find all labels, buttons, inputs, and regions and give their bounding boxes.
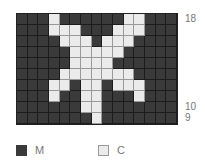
chart-cell xyxy=(102,69,113,80)
colorwork-chart-grid xyxy=(16,13,178,125)
chart-cell xyxy=(49,113,60,124)
chart-cell xyxy=(134,47,145,58)
chart-cell xyxy=(92,80,103,91)
chart-cell xyxy=(49,91,60,102)
chart-cell xyxy=(156,36,167,47)
chart-cell xyxy=(134,25,145,36)
chart-cell xyxy=(70,102,81,113)
row-label-9: 9 xyxy=(185,113,191,123)
chart-cell xyxy=(102,14,113,25)
chart-cell xyxy=(102,47,113,58)
contrast-color-label: C xyxy=(117,144,125,156)
chart-cell xyxy=(166,102,177,113)
chart-cell xyxy=(60,113,71,124)
chart-cell xyxy=(124,102,135,113)
chart-cell xyxy=(113,113,124,124)
chart-cell xyxy=(70,36,81,47)
chart-cell xyxy=(166,47,177,58)
chart-cell xyxy=(81,113,92,124)
chart-cell xyxy=(92,36,103,47)
row-label-10: 10 xyxy=(185,102,196,112)
chart-cell xyxy=(28,80,39,91)
chart-cell xyxy=(49,25,60,36)
chart-cell xyxy=(17,36,28,47)
chart-cell xyxy=(113,69,124,80)
chart-cell xyxy=(70,14,81,25)
chart-cell xyxy=(113,102,124,113)
chart-cell xyxy=(134,102,145,113)
chart-cell xyxy=(70,25,81,36)
chart-cell xyxy=(134,14,145,25)
chart-cell xyxy=(28,36,39,47)
chart-cell xyxy=(134,80,145,91)
chart-cell xyxy=(81,69,92,80)
chart-cell xyxy=(38,91,49,102)
chart-cell xyxy=(17,113,28,124)
chart-cell xyxy=(113,91,124,102)
chart-cell xyxy=(156,58,167,69)
chart-cell xyxy=(81,102,92,113)
chart-cell xyxy=(17,14,28,25)
chart-cell xyxy=(17,80,28,91)
chart-cell xyxy=(81,91,92,102)
chart-cell xyxy=(49,102,60,113)
chart-cell xyxy=(60,58,71,69)
chart-cell xyxy=(70,113,81,124)
chart-cell xyxy=(28,58,39,69)
chart-cell xyxy=(38,36,49,47)
chart-cell xyxy=(145,91,156,102)
chart-cell xyxy=(92,47,103,58)
chart-cell xyxy=(17,91,28,102)
chart-cell xyxy=(113,47,124,58)
chart-cell xyxy=(113,14,124,25)
chart-cell xyxy=(124,80,135,91)
legend-item-contrast-color: C xyxy=(98,144,125,156)
chart-cell xyxy=(145,25,156,36)
chart-cell xyxy=(145,58,156,69)
chart-cell xyxy=(49,80,60,91)
chart-cell xyxy=(166,36,177,47)
chart-cell xyxy=(134,113,145,124)
chart-cell xyxy=(28,25,39,36)
chart-cell xyxy=(17,102,28,113)
chart-cell xyxy=(28,102,39,113)
legend-item-main-color: M xyxy=(16,144,44,156)
chart-cell xyxy=(81,80,92,91)
chart-cell xyxy=(124,113,135,124)
chart-cell xyxy=(92,102,103,113)
chart-cell xyxy=(156,113,167,124)
chart-cell xyxy=(92,25,103,36)
chart-cell xyxy=(92,113,103,124)
chart-cell xyxy=(166,113,177,124)
chart-cell xyxy=(38,25,49,36)
chart-cell xyxy=(124,91,135,102)
chart-cell xyxy=(113,58,124,69)
chart-cell xyxy=(102,25,113,36)
chart-cell xyxy=(28,69,39,80)
chart-cell xyxy=(166,91,177,102)
chart-cell xyxy=(156,47,167,58)
chart-cell xyxy=(92,58,103,69)
chart-cell xyxy=(145,69,156,80)
chart-cell xyxy=(49,36,60,47)
chart-cell xyxy=(81,58,92,69)
chart-cell xyxy=(28,47,39,58)
chart-cell xyxy=(70,80,81,91)
chart-cell xyxy=(70,47,81,58)
chart-cell xyxy=(102,91,113,102)
row-label-18: 18 xyxy=(185,14,196,24)
chart-cell xyxy=(145,47,156,58)
main-color-label: M xyxy=(35,144,44,156)
chart-cell xyxy=(38,69,49,80)
chart-cell xyxy=(156,91,167,102)
chart-cell xyxy=(70,58,81,69)
chart-cell xyxy=(124,47,135,58)
chart-cell xyxy=(92,14,103,25)
chart-cell xyxy=(81,47,92,58)
chart-cell xyxy=(70,91,81,102)
chart-cell xyxy=(28,113,39,124)
chart-cell xyxy=(124,36,135,47)
chart-cell xyxy=(156,69,167,80)
chart-cell xyxy=(156,14,167,25)
chart-cell xyxy=(156,25,167,36)
